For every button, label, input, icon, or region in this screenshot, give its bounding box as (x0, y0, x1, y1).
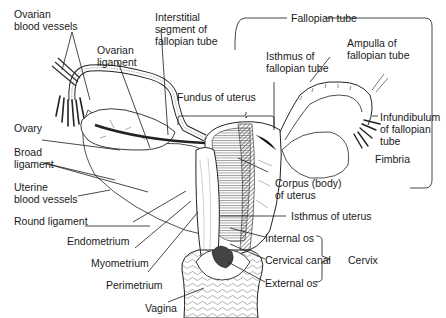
label-isthmus-of-fallopian-tube: Isthmus of fallopian tube (266, 50, 328, 74)
label-infundibulum: Infundibulum of fallopian tube (380, 111, 440, 147)
label-ampulla: Ampulla of fallopian tube (347, 37, 409, 61)
label-fallopian-tube: Fallopian tube (291, 12, 357, 24)
label-interstitial-segment: Interstitial segment of fallopian tube (155, 11, 217, 47)
right-fallopian-tube-shape (280, 74, 388, 178)
label-cervical-canal: Cervical canal (265, 254, 331, 266)
label-fundus-of-uterus: Fundus of uterus (177, 91, 256, 103)
label-internal-os: Internal os (265, 232, 314, 244)
label-ovary: Ovary (14, 122, 42, 134)
label-ovarian-blood-vessels: Ovarian blood vessels (14, 8, 78, 32)
label-corpus-of-uterus: Corpus (body) of uterus (275, 177, 342, 201)
ovary-shape (81, 109, 175, 150)
label-vagina: Vagina (145, 302, 177, 314)
label-broad-ligament: Broad ligament (14, 146, 54, 170)
label-endometrium: Endometrium (67, 235, 129, 247)
label-isthmus-of-uterus: Isthmus of uterus (291, 210, 372, 222)
endometrium-cavity-shape (196, 148, 219, 264)
label-perimetrium: Perimetrium (106, 279, 163, 291)
label-myometrium: Myometrium (91, 257, 149, 269)
label-external-os: External os (265, 277, 318, 289)
label-uterine-blood-vessels: Uterine blood vessels (14, 181, 78, 205)
label-fimbria: Fimbria (375, 153, 410, 165)
vagina-shape (182, 246, 263, 318)
label-cervix: Cervix (348, 254, 378, 266)
label-round-ligament: Round ligament (14, 215, 88, 227)
label-ovarian-ligament: Ovarian ligament (97, 44, 137, 68)
uterus-anatomy-diagram: Ovarian blood vessels Ovarian ligament I… (0, 0, 446, 318)
